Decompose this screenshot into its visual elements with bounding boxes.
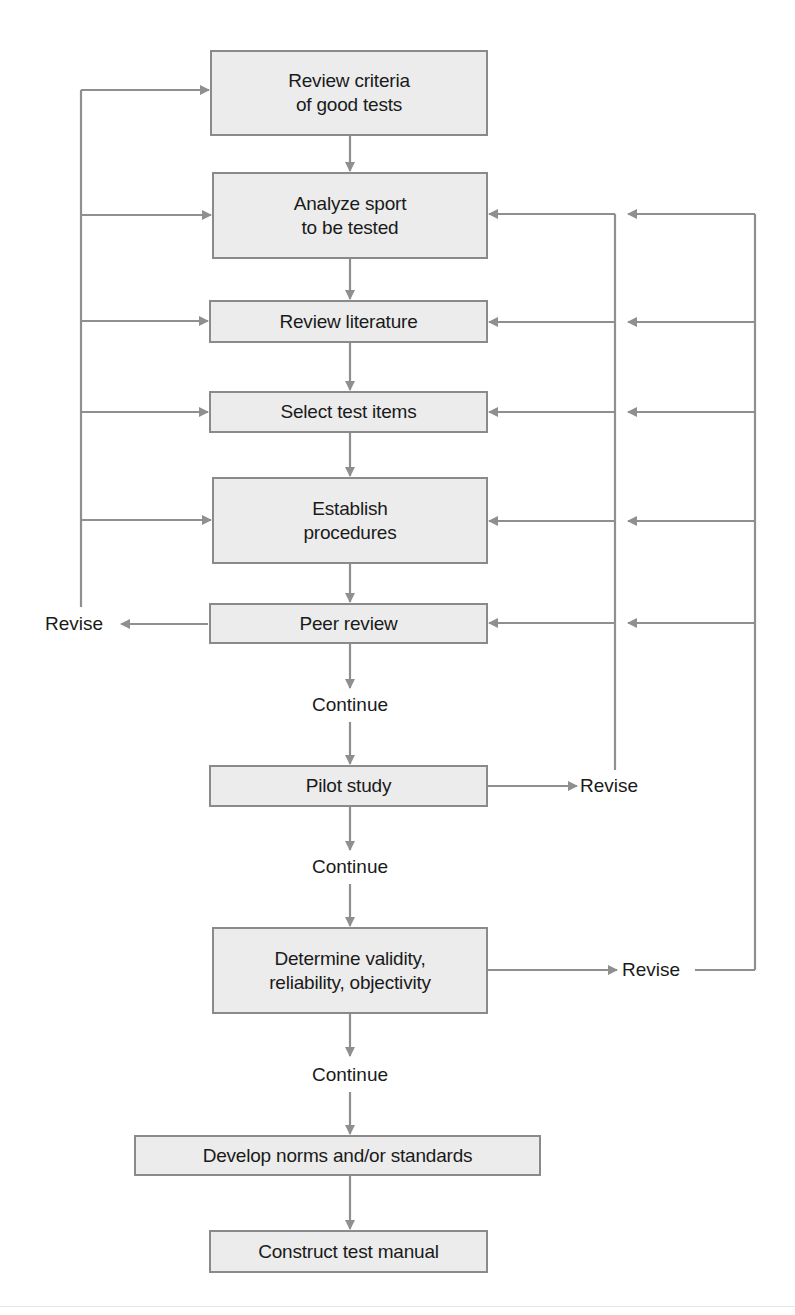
continue-label-1: Continue [312,694,388,716]
step-select-test-items: Select test items [209,391,488,433]
step-develop-norms: Develop norms and/or standards [134,1135,541,1176]
step-peer-review: Peer review [209,603,488,644]
continue-label-3: Continue [312,1064,388,1086]
step-review-literature: Review literature [209,300,488,343]
step-label: Review criteria of good tests [288,69,410,117]
step-construct-manual: Construct test manual [209,1230,488,1273]
step-label: Develop norms and/or standards [203,1144,473,1168]
step-label: Analyze sport to be tested [294,192,407,240]
step-label: Pilot study [306,774,391,798]
step-label: Construct test manual [258,1240,439,1264]
revise-label-peer: Revise [45,613,103,635]
step-analyze-sport: Analyze sport to be tested [212,172,488,259]
step-label: Review literature [279,310,417,334]
step-review-criteria: Review criteria of good tests [210,50,488,136]
step-establish-procedures: Establish procedures [212,477,488,564]
page-divider [0,1306,795,1307]
step-determine-validity: Determine validity, reliability, objecti… [212,927,488,1014]
step-label: Select test items [281,400,417,424]
flowchart-canvas: Review criteria of good tests Analyze sp… [0,0,795,1315]
revise-label-determine: Revise [622,959,680,981]
revise-label-pilot: Revise [580,775,638,797]
step-label: Determine validity, reliability, objecti… [269,947,431,995]
step-pilot-study: Pilot study [209,765,488,807]
step-label: Establish procedures [303,497,396,545]
continue-label-2: Continue [312,856,388,878]
step-label: Peer review [299,612,397,636]
